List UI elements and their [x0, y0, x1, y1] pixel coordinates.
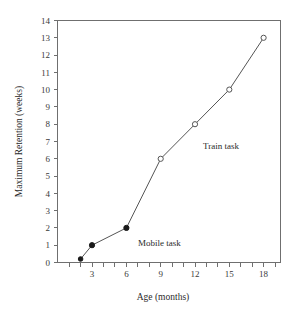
x-tick-label: 3	[90, 269, 95, 279]
y-axis-title: Maximum Retention (weeks)	[14, 86, 25, 197]
y-tick-label: 3	[46, 206, 51, 216]
data-point-marker	[227, 87, 232, 92]
annotation-train-task: Train task	[203, 141, 239, 151]
data-point-marker	[261, 35, 266, 40]
y-tick-label: 11	[41, 68, 50, 78]
y-tick-label: 8	[46, 119, 51, 129]
retention-line-chart-figure: 14 13 12 11 10 9 8 7 6 5 4 3 2 1 0	[0, 0, 303, 318]
y-tick-label: 1	[46, 240, 51, 250]
data-point-marker	[78, 257, 83, 262]
x-axis-title: Age (months)	[137, 292, 190, 303]
x-tick-label: 18	[259, 269, 269, 279]
y-tick-label: 10	[41, 85, 51, 95]
y-tick-label: 9	[46, 102, 51, 112]
data-point-marker	[192, 122, 197, 127]
data-point-marker	[158, 156, 163, 161]
x-tick-label: 9	[158, 269, 163, 279]
y-tick-label: 2	[46, 223, 51, 233]
y-tick-label: 5	[46, 171, 51, 181]
y-tick-label: 7	[46, 137, 51, 147]
y-tick-label: 14	[41, 16, 51, 26]
x-tick-label: 12	[191, 269, 200, 279]
annotation-mobile-task: Mobile task	[138, 238, 181, 248]
data-point-marker	[89, 243, 94, 248]
y-tick-label: 12	[41, 50, 50, 60]
y-tick-label: 0	[46, 258, 51, 268]
chart-canvas: 14 13 12 11 10 9 8 7 6 5 4 3 2 1 0	[0, 0, 303, 318]
x-tick-label: 6	[124, 269, 129, 279]
y-tick-label: 13	[41, 33, 51, 43]
data-point-marker	[124, 225, 129, 230]
y-tick-label: 6	[46, 154, 51, 164]
x-tick-label: 15	[225, 269, 235, 279]
y-tick-label: 4	[46, 189, 51, 199]
